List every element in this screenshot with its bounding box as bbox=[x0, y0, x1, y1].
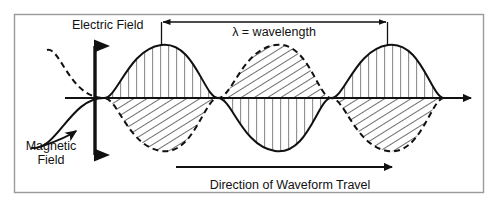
wavelength-label: λ = wavelength bbox=[232, 25, 316, 39]
magnetic-field-label-line2: Field bbox=[37, 153, 64, 167]
electric-field-label: Electric Field bbox=[72, 18, 144, 32]
diagram-canvas: λ = wavelength Electric Field Magnetic F… bbox=[0, 0, 499, 205]
travel-direction-label: Direction of Waveform Travel bbox=[210, 178, 371, 192]
magnetic-field-label-line1: Magnetic bbox=[26, 139, 77, 153]
